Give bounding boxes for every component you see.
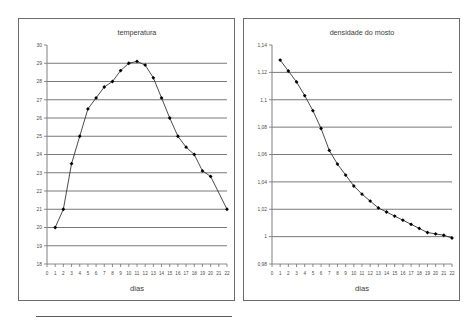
x-tick-label: 7: [103, 271, 106, 276]
data-point-marker: [303, 94, 307, 98]
x-tick-label: 8: [336, 271, 339, 276]
data-point-marker: [311, 109, 315, 113]
x-tick-label: 0: [46, 271, 49, 276]
x-tick-label: 21: [441, 271, 447, 276]
chart-title: temperatura: [118, 28, 157, 37]
x-tick-label: 13: [376, 271, 382, 276]
x-axis-ticks: 012345678910111213141516171819202122: [46, 264, 230, 276]
y-axis-ticks: 1,141,121,11,081,061,041,0210,98: [257, 43, 272, 267]
x-tick-label: 2: [62, 271, 65, 276]
y-tick-label: 22: [37, 189, 43, 194]
x-tick-label: 4: [303, 271, 306, 276]
y-tick-label: 1: [264, 234, 267, 239]
x-tick-label: 6: [320, 271, 323, 276]
x-tick-label: 6: [95, 271, 98, 276]
x-tick-label: 19: [200, 271, 206, 276]
x-axis-label: dias: [130, 284, 144, 293]
y-tick-label: 1,06: [257, 152, 267, 157]
x-tick-label: 10: [126, 271, 132, 276]
horizontal-rule: [36, 316, 232, 317]
x-tick-label: 3: [70, 271, 73, 276]
y-tick-label: 18: [37, 262, 43, 267]
data-point-marker: [426, 231, 430, 235]
y-tick-label: 23: [37, 171, 43, 176]
page-canvas: temperatura30292827262524232221201918012…: [0, 0, 473, 324]
x-tick-label: 20: [433, 271, 439, 276]
x-tick-label: 15: [392, 271, 398, 276]
x-tick-label: 8: [111, 271, 114, 276]
x-axis-ticks: 012345678910111213141516171819202122: [271, 264, 455, 276]
y-tick-label: 21: [37, 207, 43, 212]
y-tick-label: 28: [37, 79, 43, 84]
x-tick-label: 22: [449, 271, 455, 276]
data-point-marker: [393, 214, 397, 218]
x-tick-label: 14: [159, 271, 165, 276]
x-tick-label: 18: [192, 271, 198, 276]
data-point-marker: [434, 232, 438, 236]
data-point-marker: [135, 60, 139, 64]
data-point-marker: [417, 227, 421, 231]
gridlines: [272, 72, 452, 236]
y-tick-label: 1,02: [257, 207, 267, 212]
data-point-marker: [160, 96, 164, 100]
x-tick-label: 22: [224, 271, 230, 276]
y-tick-label: 25: [37, 134, 43, 139]
y-tick-label: 29: [37, 61, 43, 66]
data-point-marker: [327, 148, 331, 152]
data-point-marker: [53, 226, 57, 230]
x-tick-label: 12: [143, 271, 149, 276]
x-tick-label: 16: [175, 271, 181, 276]
data-point-marker: [168, 116, 172, 120]
x-tick-label: 0: [271, 271, 274, 276]
data-point-marker: [70, 162, 74, 166]
x-tick-label: 7: [328, 271, 331, 276]
x-tick-label: 17: [409, 271, 415, 276]
x-tick-label: 4: [78, 271, 81, 276]
chart-densidade-do-mosto: densidade do mosto1,141,121,11,081,061,0…: [244, 19, 459, 300]
x-tick-label: 10: [351, 271, 357, 276]
chart-temperatura: temperatura30292827262524232221201918012…: [19, 19, 234, 300]
y-tick-label: 26: [37, 116, 43, 121]
x-axis-label: dias: [355, 284, 369, 293]
x-tick-label: 18: [417, 271, 423, 276]
x-tick-label: 13: [151, 271, 157, 276]
y-tick-label: 1,1: [260, 98, 267, 103]
data-point-marker: [225, 207, 229, 211]
x-tick-label: 15: [167, 271, 173, 276]
y-tick-label: 0,98: [257, 262, 267, 267]
y-tick-label: 30: [37, 43, 43, 48]
x-tick-label: 9: [119, 271, 122, 276]
y-tick-label: 1,12: [257, 70, 267, 75]
x-tick-label: 11: [135, 271, 140, 276]
x-tick-label: 5: [87, 271, 90, 276]
y-tick-label: 24: [37, 152, 43, 157]
x-tick-label: 16: [400, 271, 406, 276]
data-point-marker: [385, 210, 389, 214]
y-axis-ticks: 30292827262524232221201918: [37, 43, 47, 267]
x-tick-label: 5: [312, 271, 315, 276]
x-tick-label: 19: [425, 271, 431, 276]
data-point-marker: [401, 218, 405, 222]
x-tick-label: 20: [208, 271, 214, 276]
data-markers: [278, 58, 454, 240]
y-tick-label: 1,08: [257, 125, 267, 130]
y-tick-label: 1,14: [257, 43, 267, 48]
x-tick-label: 12: [368, 271, 374, 276]
data-series-line: [55, 61, 227, 227]
y-tick-label: 27: [37, 98, 43, 103]
x-tick-label: 3: [295, 271, 298, 276]
data-point-marker: [409, 222, 413, 226]
data-point-marker: [61, 207, 65, 211]
x-tick-label: 21: [216, 271, 222, 276]
y-tick-label: 19: [37, 244, 43, 249]
x-tick-label: 1: [54, 271, 57, 276]
x-tick-label: 9: [344, 271, 347, 276]
chart-title: densidade do mosto: [330, 28, 395, 37]
x-tick-label: 17: [184, 271, 190, 276]
y-tick-label: 1,04: [257, 180, 267, 185]
data-point-marker: [78, 134, 82, 138]
x-tick-label: 2: [287, 271, 290, 276]
chart-panel-densidade: densidade do mosto1,141,121,11,081,061,0…: [243, 18, 460, 301]
chart-panel-temperatura: temperatura30292827262524232221201918012…: [18, 18, 235, 301]
data-series-line: [280, 60, 452, 238]
